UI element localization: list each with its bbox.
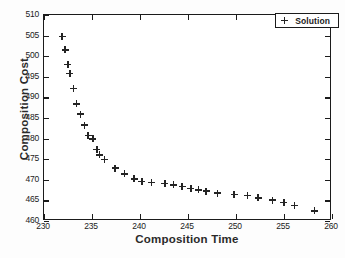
x-axis-tick-label: 235 bbox=[84, 222, 98, 231]
y-axis-tick-labels: 460465470475480485490495500505510 bbox=[0, 14, 345, 220]
y-axis-title: Composition Cost bbox=[18, 29, 30, 189]
x-axis-tick-label: 240 bbox=[132, 222, 146, 231]
chart-figure: 460465470475480485490495500505510 230235… bbox=[0, 0, 345, 258]
x-axis-tick-label: 230 bbox=[36, 222, 50, 231]
legend-plus-marker-icon bbox=[281, 17, 288, 24]
y-axis-tick-label: 465 bbox=[25, 195, 39, 204]
legend-entry-label: Solution bbox=[295, 16, 330, 26]
x-axis-tick-label: 255 bbox=[276, 222, 290, 231]
x-axis-tick-label: 245 bbox=[180, 222, 194, 231]
y-axis-tick-label: 510 bbox=[25, 10, 39, 19]
chart-legend: Solution bbox=[275, 13, 339, 28]
x-axis-tick-label: 260 bbox=[324, 222, 338, 231]
x-axis-title: Composition Time bbox=[43, 233, 331, 245]
x-axis-tick-label: 250 bbox=[228, 222, 242, 231]
